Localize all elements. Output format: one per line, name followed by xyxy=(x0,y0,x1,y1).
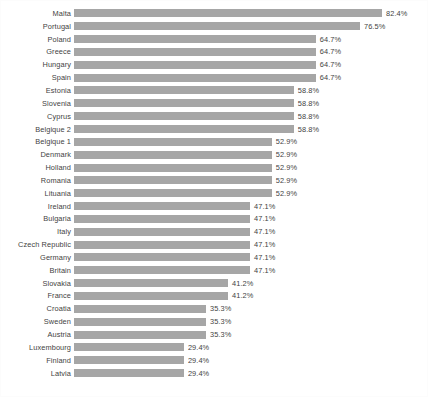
value-label: 52.9% xyxy=(272,163,297,172)
category-label: Lituania xyxy=(0,189,74,198)
value-label: 52.9% xyxy=(272,150,297,159)
category-label: Portugal xyxy=(0,22,74,31)
category-label: Slovenia xyxy=(0,99,74,108)
category-label: Belgique 1 xyxy=(0,137,74,146)
category-label: Malta xyxy=(0,9,74,18)
bar-track: 64.7% xyxy=(74,71,429,84)
category-label: Estonia xyxy=(0,86,74,95)
bar xyxy=(74,35,316,43)
bar xyxy=(74,61,316,69)
value-label: 52.9% xyxy=(272,176,297,185)
value-label: 35.3% xyxy=(206,330,231,339)
bar-track: 35.3% xyxy=(74,328,429,341)
bar-track: 64.7% xyxy=(74,58,429,71)
bar xyxy=(74,305,206,313)
bar xyxy=(74,279,228,287)
bar xyxy=(74,343,184,351)
bar-track: 64.7% xyxy=(74,33,429,46)
category-label: France xyxy=(0,291,74,300)
category-label: Italy xyxy=(0,227,74,236)
value-label: 52.9% xyxy=(272,189,297,198)
value-label: 76.5% xyxy=(360,22,385,31)
bar-track: 58.8% xyxy=(74,84,429,97)
bar-row: Germany47.1% xyxy=(0,251,429,264)
bar-row: Estonia58.8% xyxy=(0,84,429,97)
bar-row: Slovakia41.2% xyxy=(0,277,429,290)
bar-row: Sweden35.3% xyxy=(0,315,429,328)
category-label: Romania xyxy=(0,176,74,185)
category-label: Latvia xyxy=(0,369,74,378)
value-label: 52.9% xyxy=(272,137,297,146)
bar-track: 47.1% xyxy=(74,200,429,213)
value-label: 47.1% xyxy=(250,227,275,236)
bar-track: 58.8% xyxy=(74,97,429,110)
bar xyxy=(74,215,250,223)
category-label: Luxembourg xyxy=(0,343,74,352)
bar-row: Poland64.7% xyxy=(0,33,429,46)
bar xyxy=(74,189,272,197)
bar xyxy=(74,125,294,133)
value-label: 47.1% xyxy=(250,202,275,211)
bar-row: Latvia29.4% xyxy=(0,367,429,380)
bar-row: Finland29.4% xyxy=(0,354,429,367)
bar-row: Holland52.9% xyxy=(0,161,429,174)
bar-row: Bulgaria47.1% xyxy=(0,213,429,226)
bar xyxy=(74,228,250,236)
value-label: 29.4% xyxy=(184,356,209,365)
category-label: Hungary xyxy=(0,60,74,69)
bar-track: 47.1% xyxy=(74,238,429,251)
bar-row: Ireland47.1% xyxy=(0,200,429,213)
bar xyxy=(74,176,272,184)
bar xyxy=(74,318,206,326)
bar-track: 41.2% xyxy=(74,290,429,303)
bar-track: 76.5% xyxy=(74,20,429,33)
bar xyxy=(74,86,294,94)
bar xyxy=(74,74,316,82)
value-label: 47.1% xyxy=(250,214,275,223)
bar xyxy=(74,138,272,146)
category-label: Cyprus xyxy=(0,112,74,121)
value-label: 29.4% xyxy=(184,369,209,378)
bar xyxy=(74,48,316,56)
bar-track: 58.8% xyxy=(74,123,429,136)
category-label: Britain xyxy=(0,266,74,275)
category-label: Belgique 2 xyxy=(0,125,74,134)
bar xyxy=(74,292,228,300)
bar-track: 52.9% xyxy=(74,187,429,200)
value-label: 35.3% xyxy=(206,317,231,326)
bar-track: 47.1% xyxy=(74,213,429,226)
bar xyxy=(74,164,272,172)
value-label: 35.3% xyxy=(206,304,231,313)
category-label: Holland xyxy=(0,163,74,172)
bar-row: Austria35.3% xyxy=(0,328,429,341)
category-label: Spain xyxy=(0,73,74,82)
category-label: Austria xyxy=(0,330,74,339)
value-label: 58.8% xyxy=(294,112,319,121)
bar-track: 82.4% xyxy=(74,7,429,20)
bar xyxy=(74,22,360,30)
bar xyxy=(74,266,250,274)
bar xyxy=(74,369,184,377)
bar-track: 47.1% xyxy=(74,225,429,238)
bar xyxy=(74,99,294,107)
bar xyxy=(74,202,250,210)
category-label: Slovakia xyxy=(0,279,74,288)
value-label: 58.8% xyxy=(294,99,319,108)
value-label: 47.1% xyxy=(250,253,275,262)
bar-row: Portugal76.5% xyxy=(0,20,429,33)
bar-track: 29.4% xyxy=(74,367,429,380)
bar-row: Spain64.7% xyxy=(0,71,429,84)
value-label: 41.2% xyxy=(228,279,253,288)
bar-track: 29.4% xyxy=(74,354,429,367)
category-label: Poland xyxy=(0,35,74,44)
bar-rows-container: Malta82.4%Portugal76.5%Poland64.7%Greece… xyxy=(0,7,429,379)
category-label: Ireland xyxy=(0,202,74,211)
bar-row: Slovenia58.8% xyxy=(0,97,429,110)
bar-row: Malta82.4% xyxy=(0,7,429,20)
bar-row: Denmark52.9% xyxy=(0,148,429,161)
category-label: Sweden xyxy=(0,317,74,326)
bar-row: Lituania52.9% xyxy=(0,187,429,200)
value-label: 29.4% xyxy=(184,343,209,352)
bar-track: 52.9% xyxy=(74,161,429,174)
value-label: 58.8% xyxy=(294,86,319,95)
